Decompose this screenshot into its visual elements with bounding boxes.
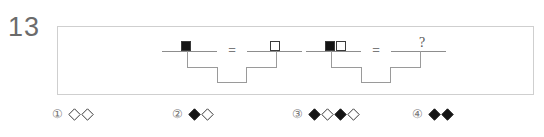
- scale-pedestal: [217, 67, 247, 83]
- question-panel: = = ?: [57, 26, 534, 95]
- equals-icon: =: [362, 43, 390, 56]
- scale-1-right-pan-weights: [270, 39, 280, 51]
- scale-pedestal: [361, 67, 391, 83]
- filled-diamond-icon: [428, 108, 441, 121]
- open-diamond-icon: [347, 108, 360, 121]
- filled-diamond-icon: [441, 108, 454, 121]
- option-2-shapes: [188, 108, 214, 121]
- problem-figure: 13 = =: [0, 0, 544, 137]
- filled-square-icon: [325, 41, 335, 51]
- open-square-icon: [270, 41, 280, 51]
- open-diamond-icon: [81, 108, 94, 121]
- option-3-shapes: [308, 108, 360, 121]
- option-1-shapes: [68, 108, 94, 121]
- open-square-icon: [336, 41, 346, 51]
- option-2[interactable]: ②: [172, 103, 214, 125]
- scale-hanger-left: [331, 51, 332, 67]
- filled-square-icon: [181, 41, 191, 51]
- balance-scale-1: =: [162, 35, 302, 87]
- option-2-number: ②: [172, 108, 183, 120]
- filled-diamond-icon: [334, 108, 347, 121]
- filled-diamond-icon: [308, 108, 321, 121]
- option-3-number: ③: [292, 108, 303, 120]
- option-4-shapes: [428, 108, 454, 121]
- option-1-number: ①: [52, 108, 63, 120]
- scale-hanger-right: [276, 51, 277, 67]
- option-4-number: ④: [412, 108, 423, 120]
- scale-hanger-left: [187, 51, 188, 67]
- answer-options: ① ② ③: [0, 103, 544, 127]
- option-4[interactable]: ④: [412, 103, 454, 125]
- open-diamond-icon: [68, 108, 81, 121]
- open-diamond-icon: [321, 108, 334, 121]
- scale-2-left-pan-weights: [325, 39, 346, 51]
- scale-hanger-right: [420, 51, 421, 67]
- balance-scale-2: = ?: [306, 35, 446, 87]
- open-diamond-icon: [201, 108, 214, 121]
- option-3[interactable]: ③: [292, 103, 360, 125]
- question-mark: ?: [414, 35, 430, 51]
- problem-number: 13: [8, 14, 40, 41]
- option-1[interactable]: ①: [52, 103, 94, 125]
- filled-diamond-icon: [188, 108, 201, 121]
- scale-1-left-pan-weights: [181, 39, 191, 51]
- equals-icon: =: [218, 43, 246, 56]
